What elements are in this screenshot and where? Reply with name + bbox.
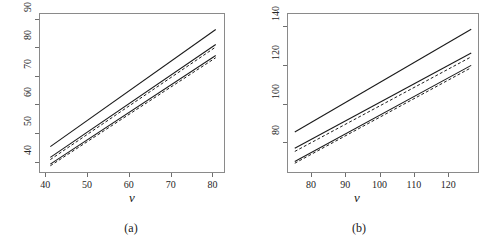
y-tick-mark [283, 104, 287, 105]
x-tick-label: 90 [340, 180, 350, 190]
series-middle-dashed [295, 57, 471, 152]
x-tick-mark [448, 173, 449, 177]
y-tick-label: 140 [270, 2, 282, 26]
x-tick-mark [171, 173, 172, 177]
y-tick-mark [283, 26, 287, 27]
x-tick-label: 70 [166, 180, 176, 190]
plot-lines-a [40, 14, 224, 172]
series-middle-solid [295, 53, 471, 148]
y-tick-mark [35, 162, 39, 163]
x-tick-mark [212, 173, 213, 177]
series-lower-dashed [50, 58, 215, 166]
y-tick-label: 80 [270, 118, 282, 142]
y-tick-mark [35, 104, 39, 105]
x-axis-label-a: v [129, 190, 135, 206]
series-middle-solid [50, 44, 215, 157]
y-tick-label: 40 [22, 138, 34, 162]
y-tick-label: 80 [22, 23, 34, 47]
x-tick-mark [345, 173, 346, 177]
x-tick-label: 60 [124, 180, 134, 190]
panel-a: 4050607080 405060708090 v (a) [0, 0, 246, 251]
y-tick-mark [35, 76, 39, 77]
y-tick-mark [35, 19, 39, 20]
y-tick-label: 120 [270, 41, 282, 65]
y-tick-mark [35, 47, 39, 48]
x-tick-mark [87, 173, 88, 177]
y-tick-label: 70 [22, 52, 34, 76]
series-upper-solid [50, 30, 215, 147]
panel-caption-b: (b) [352, 221, 366, 236]
y-tick-label: 100 [270, 80, 282, 104]
y-tick-mark [283, 65, 287, 66]
figure-two-panel-line-plots: 4050607080 405060708090 v (a) 8090100110… [0, 0, 493, 251]
y-tick-mark [283, 142, 287, 143]
panel-b: 8090100110120 80100120140 v (b) [246, 0, 493, 251]
panel-caption-a: (a) [124, 221, 137, 236]
series-lower-solid [50, 55, 215, 164]
y-tick-label: 50 [22, 109, 34, 133]
series-lower-solid [295, 65, 471, 161]
series-upper-solid [295, 29, 471, 132]
x-tick-label: 80 [306, 180, 316, 190]
x-tick-label: 80 [207, 180, 217, 190]
x-axis-label-b: v [354, 190, 360, 206]
x-tick-mark [380, 173, 381, 177]
plot-lines-b [288, 14, 478, 172]
y-tick-label: 60 [22, 80, 34, 104]
x-tick-label: 100 [372, 180, 387, 190]
y-tick-mark [35, 133, 39, 134]
x-tick-label: 40 [40, 180, 50, 190]
series-lower-dashed [295, 68, 471, 164]
plot-area-b [287, 13, 479, 173]
x-tick-mark [311, 173, 312, 177]
plot-area-a [39, 13, 225, 173]
x-tick-label: 110 [407, 180, 422, 190]
x-tick-label: 120 [441, 180, 456, 190]
x-tick-label: 50 [82, 180, 92, 190]
x-tick-mark [414, 173, 415, 177]
x-tick-mark [129, 173, 130, 177]
x-tick-mark [45, 173, 46, 177]
y-tick-label: 90 [22, 0, 34, 19]
series-middle-dashed [50, 47, 215, 160]
